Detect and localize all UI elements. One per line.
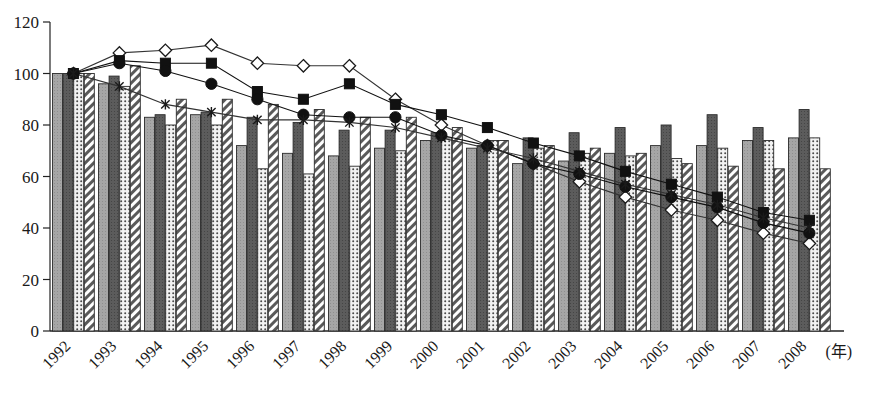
bar-bar-dotted [718,148,728,331]
bar-bar-dark-gray [385,130,395,331]
bar-bar-dark-gray [109,76,119,331]
y-tick-label: 80 [22,116,39,135]
marker-filled-square [436,110,446,120]
bar-bar-hatched [130,66,140,331]
bar-bar-light-gray [559,161,569,331]
bar-bar-light-gray [283,153,293,331]
bar-bar-hatched [774,169,784,331]
marker-filled-square [574,151,584,161]
bar-bar-light-gray [237,146,247,331]
bar-bar-hatched [360,117,370,331]
combo-bar-line-chart: 0204060801001201992199319941995199619971… [0,0,872,412]
x-tick-label: 2008 [775,337,810,372]
bar-bar-dotted [534,148,544,331]
y-tick-label: 40 [22,219,39,238]
bar-bar-hatched [268,104,278,331]
bar-group [605,128,647,331]
bar-bar-dotted [488,140,498,331]
marker-filled-square [344,79,354,89]
x-tick-label: 1999 [361,337,396,372]
marker-open-diamond [343,60,355,72]
bar-bar-light-gray [145,117,155,331]
x-tick-label: 2004 [591,337,626,372]
bar-bar-light-gray [421,140,431,331]
bar-bar-dark-gray [63,74,73,332]
bar-bar-dotted [396,151,406,331]
bar-bar-dark-gray [569,133,579,331]
marker-filled-square [528,138,538,148]
bar-bar-dark-gray [155,115,165,331]
y-tick-label: 100 [14,65,40,84]
y-tick-label: 60 [22,168,39,187]
bar-bar-hatched [498,140,508,331]
bar-bar-light-gray [743,140,753,331]
bar-bar-dotted [212,125,222,331]
marker-filled-square [298,94,308,104]
marker-filled-square [390,99,400,109]
bar-bar-dotted [350,166,360,331]
x-tick-label: 2006 [683,337,718,372]
marker-filled-square [666,179,676,189]
bar-bar-hatched [636,153,646,331]
bar-group [191,99,233,331]
bar-bar-dark-gray [293,122,303,331]
x-tick-label: 2001 [453,337,488,372]
bar-bar-hatched [222,99,232,331]
bar-bar-dotted [120,86,130,331]
bar-bar-hatched [820,169,830,331]
bar-group [237,104,279,331]
bar-bar-light-gray [467,148,477,331]
bar-bar-dark-gray [339,130,349,331]
marker-filled-circle [206,78,217,89]
bar-bar-light-gray [651,146,661,331]
bar-bar-hatched [728,166,738,331]
x-tick-label: 2003 [545,337,580,372]
y-tick-label: 0 [31,322,40,341]
bar-bar-dark-gray [615,128,625,331]
y-tick-label: 20 [22,271,39,290]
x-tick-label: 1997 [269,337,304,372]
bar-bar-hatched [314,110,324,331]
bar-bar-light-gray [789,138,799,331]
bar-bar-light-gray [329,156,339,331]
x-tick-label: 1995 [177,337,212,372]
bar-bar-light-gray [191,115,201,331]
bar-bar-light-gray [99,84,109,331]
x-tick-label: 2002 [499,337,534,372]
x-tick-label: 2000 [407,337,442,372]
bar-bar-hatched [176,99,186,331]
bar-bar-dotted [442,138,452,331]
bar-group [467,140,509,331]
bar-group [375,117,417,331]
marker-filled-square [482,123,492,133]
x-tick-label: 1994 [131,337,166,372]
marker-filled-square [620,166,630,176]
bar-bar-dotted [304,174,314,331]
bar-bar-hatched [84,74,94,332]
bar-bar-dark-gray [201,112,211,331]
bar-bar-light-gray [697,146,707,331]
marker-filled-square [206,58,216,68]
x-axis-unit-label: (年) [825,343,852,361]
bar-group [421,128,463,331]
marker-open-diamond [297,60,309,72]
bar-bar-hatched [544,146,554,331]
bar-bar-hatched [452,128,462,331]
bar-group [53,74,95,332]
x-tick-labels: 1992199319941995199619971998199920002001… [39,337,810,372]
marker-open-diamond [251,57,263,69]
bar-group [329,117,371,331]
bar-bar-dotted [166,125,176,331]
bar-bar-dark-gray [431,133,441,331]
marker-filled-circle [390,112,401,123]
y-tick-label: 120 [14,13,40,32]
bar-group [145,99,187,331]
bar-bar-light-gray [53,74,63,332]
marker-filled-circle [114,58,125,69]
marker-open-diamond [159,44,171,56]
bar-bar-dark-gray [247,117,257,331]
bar-bar-dotted [258,169,268,331]
marker-filled-circle [160,65,171,76]
bar-group [283,110,325,331]
marker-filled-circle [252,94,263,105]
